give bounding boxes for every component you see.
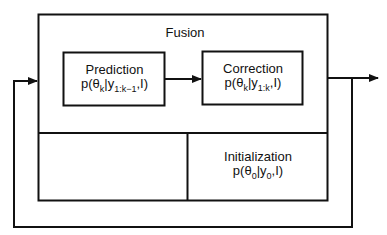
initialization-equation: p(θ0|y0,I) bbox=[188, 164, 328, 183]
initialization-title: Initialization bbox=[188, 150, 328, 164]
prediction-equation: p(θk|y1:k−1,I) bbox=[64, 77, 165, 96]
correction-title: Correction bbox=[203, 62, 303, 76]
initialization-label: Initialization p(θ0|y0,I) bbox=[188, 150, 328, 183]
correction-label: Correction p(θk|y1:k,I) bbox=[203, 62, 303, 95]
correction-equation: p(θk|y1:k,I) bbox=[203, 76, 303, 95]
fusion-label: Fusion bbox=[150, 26, 220, 40]
prediction-label: Prediction p(θk|y1:k−1,I) bbox=[64, 63, 165, 96]
prediction-title: Prediction bbox=[64, 63, 165, 77]
